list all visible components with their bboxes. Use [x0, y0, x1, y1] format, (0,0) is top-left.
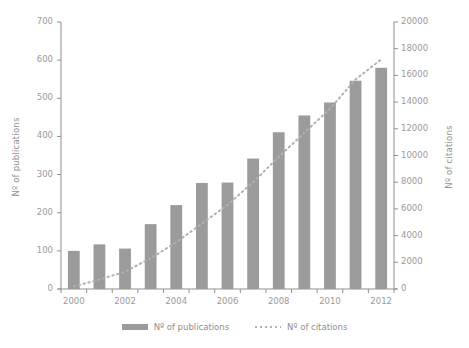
y-tick-right-20000: 20000	[401, 16, 441, 26]
legend-dotted-swatch-icon	[255, 326, 281, 328]
bar-2011	[350, 81, 362, 289]
x-tick-2004: 2004	[156, 296, 196, 306]
y-tick-left-100: 100	[19, 245, 53, 255]
legend-item-citations: Nº of citations	[255, 322, 347, 332]
bar-2002	[119, 249, 131, 289]
y-tick-right-0: 0	[401, 283, 441, 293]
y-tick-left-200: 200	[19, 207, 53, 217]
y-tick-left-700: 700	[19, 16, 53, 26]
legend-label-publications: Nº of publications	[154, 322, 229, 332]
legend-item-publications: Nº of publications	[122, 322, 229, 332]
x-tick-2008: 2008	[259, 296, 299, 306]
y-tick-right-16000: 16000	[401, 69, 441, 79]
bar-2005	[196, 183, 208, 289]
chart-container: Nº of publications Nº of citations 01002…	[0, 0, 469, 348]
bar-series-publications	[68, 68, 387, 289]
x-tick-2002: 2002	[105, 296, 145, 306]
y-tick-right-2000: 2000	[401, 256, 441, 266]
y-axis-right-title: Nº of citations	[444, 97, 454, 217]
y-tick-left-500: 500	[19, 92, 53, 102]
y-tick-right-12000: 12000	[401, 123, 441, 133]
bar-2000	[68, 251, 80, 289]
y-tick-left-400: 400	[19, 130, 53, 140]
y-tick-left-300: 300	[19, 169, 53, 179]
y-tick-right-10000: 10000	[401, 150, 441, 160]
bar-2004	[170, 205, 182, 289]
y-tick-left-600: 600	[19, 54, 53, 64]
legend-bar-swatch-icon	[122, 324, 148, 330]
y-tick-right-6000: 6000	[401, 203, 441, 213]
chart-legend: Nº of publications Nº of citations	[0, 322, 469, 332]
y-tick-right-14000: 14000	[401, 96, 441, 106]
y-tick-right-18000: 18000	[401, 43, 441, 53]
y-axis-left-title: Nº of publications	[11, 97, 21, 217]
bar-2006	[222, 183, 234, 289]
bar-2009	[298, 115, 310, 289]
bar-2001	[94, 244, 106, 289]
y-tick-right-8000: 8000	[401, 176, 441, 186]
x-tick-2000: 2000	[54, 296, 94, 306]
x-tick-2012: 2012	[361, 296, 401, 306]
bar-2012	[375, 68, 387, 289]
legend-label-citations: Nº of citations	[287, 322, 347, 332]
bar-2010	[324, 102, 336, 289]
x-tick-2010: 2010	[310, 296, 350, 306]
y-tick-right-4000: 4000	[401, 230, 441, 240]
x-tick-2006: 2006	[208, 296, 248, 306]
y-tick-left-0: 0	[19, 283, 53, 293]
